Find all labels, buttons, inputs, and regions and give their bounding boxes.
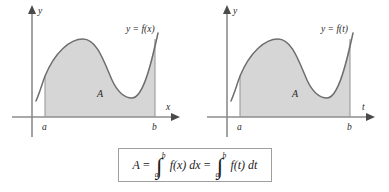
figure-root: y x a b A y = f(x) y t a b A y = f(t) [0, 0, 389, 192]
diagram-panel-left: y x a b A y = f(x) [0, 0, 195, 145]
formula-expression: A = ∫ba f(x) dx = ∫ba f(t) dt [133, 154, 258, 177]
y-axis-label-left: y [37, 6, 43, 16]
tick-label-a-right: a [237, 122, 242, 132]
area-label-left: A [96, 88, 104, 99]
x-axis-label-left: x [165, 102, 171, 112]
area-label-right: A [291, 88, 299, 99]
integral-1-lower-limit: a [155, 171, 159, 179]
y-axis-arrow-left [28, 5, 36, 14]
integral-sign-1: ∫ba [155, 155, 164, 178]
x-axis-label-right: t [362, 102, 365, 112]
formula-lhs: A [133, 159, 140, 171]
tick-label-a-left: a [42, 122, 47, 132]
function-label-left: y = f(x) [125, 24, 155, 35]
right-panel-svg: y t a b A y = f(t) [195, 0, 389, 145]
y-axis-label-right: y [232, 6, 238, 16]
function-label-right: y = f(t) [320, 24, 348, 35]
integral-1-upper-limit: b [162, 152, 166, 160]
formula-equals-2: = [204, 159, 211, 171]
formula-box: A = ∫ba f(x) dx = ∫ba f(t) dt [118, 148, 272, 182]
left-panel-svg: y x a b A y = f(x) [0, 0, 195, 145]
tick-label-b-left: b [152, 122, 157, 132]
y-axis-arrow-right [223, 5, 231, 14]
diagram-panel-right: y t a b A y = f(t) [195, 0, 389, 145]
integral-2-integrand: f(t) [230, 159, 245, 171]
formula-equals-1: = [143, 159, 150, 171]
integral-2-differential: dt [248, 159, 257, 171]
x-axis-arrow-left [171, 113, 180, 121]
integral-1-integrand: f(x) [170, 159, 187, 171]
integral-1-differential: dx [189, 159, 200, 171]
integral-2-upper-limit: b [222, 152, 226, 160]
integral-2-lower-limit: a [215, 171, 219, 179]
tick-label-b-right: b [347, 122, 352, 132]
x-axis-arrow-right [366, 113, 375, 121]
integral-sign-2: ∫ba [215, 155, 224, 178]
